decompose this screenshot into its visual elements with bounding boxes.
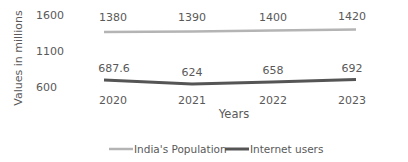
- y-tick-label: 600: [36, 81, 57, 94]
- data-label: 624: [182, 66, 203, 79]
- data-label: 658: [263, 64, 284, 77]
- legend: India's Population Internet users: [109, 143, 323, 155]
- x-tick-label: 2020: [99, 94, 127, 107]
- x-tick-label: 2021: [178, 94, 206, 107]
- data-label: 687.6: [98, 62, 130, 75]
- data-label: 692: [342, 62, 363, 75]
- data-label: 1400: [259, 11, 287, 24]
- y-axis-title: Values in millions: [12, 10, 25, 106]
- y-tick-label: 1100: [36, 45, 64, 58]
- line-chart: Values in millions 1600 1100 600 1380 13…: [0, 0, 408, 162]
- data-label: 1420: [338, 10, 366, 23]
- legend-label: Internet users: [250, 143, 323, 155]
- legend-label: India's Population: [134, 143, 227, 155]
- y-tick-label: 1600: [36, 9, 64, 22]
- series-line-internet-users: [104, 80, 356, 85]
- data-label: 1380: [99, 11, 127, 24]
- x-tick-label: 2022: [259, 94, 287, 107]
- x-tick-label: 2023: [338, 94, 366, 107]
- x-axis-title: Years: [218, 107, 249, 121]
- series-line-population: [104, 30, 356, 33]
- data-label: 1390: [178, 11, 206, 24]
